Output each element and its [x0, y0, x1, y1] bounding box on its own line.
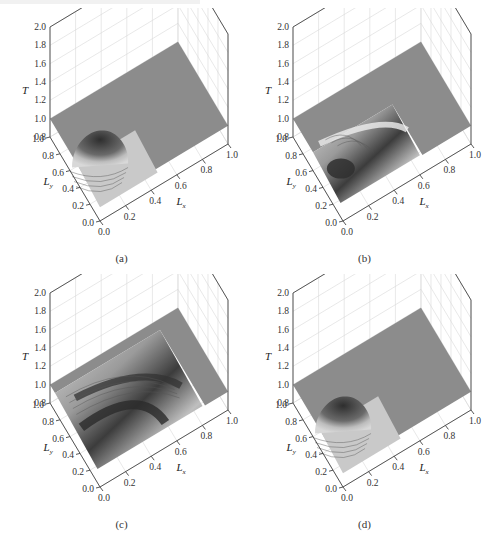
subplot-caption: (b) — [243, 252, 486, 264]
y-tick-label: 1.0 — [275, 134, 287, 144]
x-tick-label: 0.2 — [367, 478, 379, 488]
x-tick-label: 0.6 — [175, 447, 187, 457]
x-tick-label: 0.2 — [124, 478, 136, 488]
z-axis-title: T — [22, 350, 29, 362]
y-tick-label: 0.8 — [42, 151, 54, 161]
z-tick-label: 1.4 — [34, 77, 46, 87]
subplot-d: 2.01.81.61.41.21.00.81.00.80.60.40.20.00… — [243, 274, 486, 533]
y-tick-label: 0.0 — [82, 484, 94, 494]
subplot-a: 2.01.81.61.41.21.00.81.00.80.60.40.20.00… — [0, 8, 243, 274]
x-tick-label: 0.4 — [392, 462, 404, 472]
y-tick-label: 0.6 — [52, 434, 64, 444]
z-tick-label: 1.4 — [277, 343, 289, 353]
x-axis-title: Lx — [175, 195, 186, 210]
x-tick-label: 0.4 — [392, 196, 404, 206]
z-tick-label: 1.6 — [277, 325, 289, 335]
x-tick-label: 0.2 — [124, 212, 136, 222]
x-axis-title: Lx — [175, 461, 186, 476]
z-tick-label: 1.2 — [34, 361, 46, 371]
y-tick-label: 0.8 — [285, 417, 297, 427]
y-tick-label: 0.6 — [52, 168, 64, 178]
z-tick-label: 2.0 — [34, 22, 46, 32]
x-tick-label: 0.8 — [200, 165, 212, 175]
subplot-c: 2.01.81.61.41.21.00.81.00.80.60.40.20.00… — [0, 274, 243, 533]
x-tick-label: 0.0 — [341, 493, 353, 503]
z-tick-label: 1.2 — [34, 95, 46, 105]
z-tick-label: 1.8 — [277, 40, 289, 50]
y-tick-label: 0.8 — [42, 417, 54, 427]
y-tick-label: 0.0 — [82, 218, 94, 228]
z-tick-label: 1.0 — [34, 114, 46, 124]
y-tick-label: 0.2 — [72, 467, 84, 477]
z-tick-label: 1.4 — [34, 343, 46, 353]
z-tick-label: 1.6 — [34, 325, 46, 335]
surface-plot: 2.01.81.61.41.21.00.81.00.80.60.40.20.00… — [243, 274, 486, 514]
z-tick-label: 1.4 — [277, 77, 289, 87]
x-tick-label: 0.2 — [367, 212, 379, 222]
x-tick-label: 0.8 — [443, 165, 455, 175]
y-tick-label: 0.6 — [295, 168, 307, 178]
x-tick-label: 0.8 — [200, 431, 212, 441]
x-tick-label: 1.0 — [469, 416, 481, 426]
y-tick-label: 0.4 — [62, 450, 74, 460]
y-tick-label: 0.4 — [305, 450, 317, 460]
z-tick-label: 1.6 — [34, 59, 46, 69]
y-tick-label: 0.2 — [72, 201, 84, 211]
x-tick-label: 0.6 — [175, 181, 187, 191]
z-tick-label: 1.2 — [277, 361, 289, 371]
x-tick-label: 0.4 — [149, 196, 161, 206]
z-tick-label: 2.0 — [34, 288, 46, 298]
x-axis-title: Lx — [418, 195, 429, 210]
subplot-b: 2.01.81.61.41.21.00.81.00.80.60.40.20.00… — [243, 8, 486, 274]
y-tick-label: 1.0 — [32, 400, 44, 410]
z-tick-label: 2.0 — [277, 22, 289, 32]
subplot-caption: (d) — [243, 518, 486, 530]
y-tick-label: 0.0 — [325, 484, 337, 494]
z-tick-label: 1.0 — [34, 380, 46, 390]
surface-plot: 2.01.81.61.41.21.00.81.00.80.60.40.20.00… — [0, 8, 243, 248]
x-tick-label: 0.6 — [418, 181, 430, 191]
y-tick-label: 1.0 — [275, 400, 287, 410]
x-tick-label: 1.0 — [226, 150, 238, 160]
z-tick-label: 1.2 — [277, 95, 289, 105]
surface-plot: 2.01.81.61.41.21.00.81.00.80.60.40.20.00… — [243, 8, 486, 248]
z-tick-label: 1.0 — [277, 114, 289, 124]
x-tick-label: 0.0 — [98, 493, 110, 503]
x-axis-title: Lx — [418, 461, 429, 476]
x-tick-label: 0.6 — [418, 447, 430, 457]
y-tick-label: 0.2 — [315, 467, 327, 477]
z-tick-label: 1.8 — [34, 306, 46, 316]
z-tick-label: 1.0 — [277, 380, 289, 390]
z-tick-label: 1.8 — [34, 40, 46, 50]
z-axis-title: T — [22, 84, 29, 96]
x-tick-label: 1.0 — [226, 416, 238, 426]
x-tick-label: 0.8 — [443, 431, 455, 441]
x-tick-label: 1.0 — [469, 150, 481, 160]
subplot-caption: (a) — [0, 252, 243, 264]
y-tick-label: 0.4 — [305, 184, 317, 194]
z-tick-label: 2.0 — [277, 288, 289, 298]
z-tick-label: 1.6 — [277, 59, 289, 69]
x-tick-label: 0.0 — [98, 227, 110, 237]
x-tick-label: 0.4 — [149, 462, 161, 472]
z-axis-title: T — [265, 350, 272, 362]
y-tick-label: 0.6 — [295, 434, 307, 444]
y-tick-label: 0.2 — [315, 201, 327, 211]
y-tick-label: 0.8 — [285, 151, 297, 161]
z-tick-label: 1.8 — [277, 306, 289, 316]
y-tick-label: 0.0 — [325, 218, 337, 228]
subplot-caption: (c) — [0, 518, 243, 530]
surface-plot: 2.01.81.61.41.21.00.81.00.80.60.40.20.00… — [0, 274, 243, 514]
cropped-text-fragment — [0, 0, 200, 4]
y-tick-label: 1.0 — [32, 134, 44, 144]
y-tick-label: 0.4 — [62, 184, 74, 194]
z-axis-title: T — [265, 84, 272, 96]
x-tick-label: 0.0 — [341, 227, 353, 237]
